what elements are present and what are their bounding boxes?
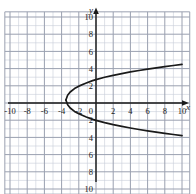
origin-label: 0 [89,106,93,116]
x-tick-label: -4 [58,106,66,116]
x-tick-label: -2 [75,106,82,116]
y-tick-label: 2 [89,81,93,91]
figure-background [0,0,196,194]
y-tick-label: 2 [89,115,93,125]
x-tick-label: 2 [111,106,115,116]
y-tick-label: 10 [85,184,94,194]
x-tick-label: 10 [178,106,187,116]
y-axis-label: y [88,5,93,15]
x-tick-label: -10 [4,106,15,116]
coordinate-plane-figure: -10-8-6-4-22468101086422468100 x y [0,0,196,194]
x-tick-label: 4 [128,106,133,116]
x-tick-label: -8 [24,106,31,116]
x-tick-label: -6 [41,106,48,116]
x-tick-label: 8 [163,106,167,116]
y-tick-label: 6 [89,150,93,160]
y-tick-label: 8 [89,167,93,177]
graph-canvas: -10-8-6-4-22468101086422468100 x y [0,0,196,194]
y-tick-label: 8 [89,29,93,39]
x-axis-label: x [185,102,190,112]
x-tick-label: 6 [145,106,149,116]
y-tick-label: 6 [89,47,93,57]
